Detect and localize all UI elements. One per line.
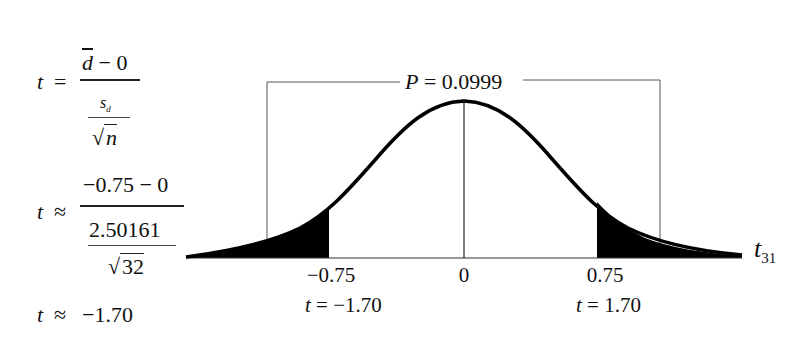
left-tail-shaded <box>186 207 329 258</box>
axis-label: t31 <box>754 234 776 267</box>
t-value-pos: t = 1.70 <box>576 293 641 318</box>
tick-label-neg: −0.75 <box>301 263 361 288</box>
right-tail-shaded <box>597 202 742 258</box>
p-value-label: P = 0.0999 <box>403 71 504 93</box>
p-value-bracket <box>267 82 400 245</box>
p-value-bracket-right <box>523 80 660 248</box>
tick-label-zero: 0 <box>444 263 484 288</box>
t-value-neg: t = −1.70 <box>305 293 382 318</box>
tick-label-pos: 0.75 <box>575 263 635 288</box>
t-distribution-plot <box>0 0 807 342</box>
